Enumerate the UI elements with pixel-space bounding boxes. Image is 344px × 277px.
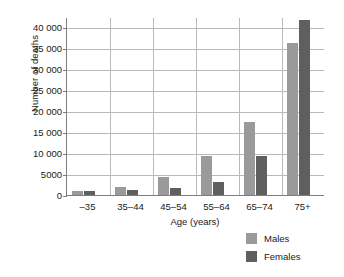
bar-females-3 [213, 182, 224, 195]
x-axis-title: Age (years) [66, 216, 324, 227]
bars-layer [67, 18, 324, 195]
y-axis-tick-mark [63, 196, 67, 197]
x-axis-tick-label: 35–44 [108, 201, 154, 213]
bar-females-4 [256, 156, 267, 195]
bar-females-5 [299, 20, 310, 195]
bar-females-2 [170, 188, 181, 195]
bar-chart-figure: Number of deaths 0500010 00015 00020 000… [0, 0, 344, 277]
bar-group [110, 18, 153, 195]
y-axis-tick-label: 30 000 [33, 65, 62, 75]
legend-label: Males [264, 233, 289, 244]
legend-swatch-females [246, 251, 257, 262]
bar-females-1 [127, 190, 138, 195]
bar-males-4 [244, 122, 255, 195]
bar-group [282, 18, 325, 195]
y-axis-tick-label: 15 000 [33, 128, 62, 138]
y-axis-tick-label: 35 000 [33, 44, 62, 54]
plot-area [66, 18, 324, 196]
bar-males-3 [201, 156, 212, 195]
bar-males-5 [287, 43, 298, 195]
y-axis-tick-label: 20 000 [33, 107, 62, 117]
y-axis-tick-label: 40 000 [33, 23, 62, 33]
x-axis-tick-label: 45–54 [151, 201, 197, 213]
x-axis-tick-label: 65–74 [237, 201, 283, 213]
y-axis-tick-label: 0 [57, 191, 62, 201]
legend-item-females: Females [246, 248, 300, 264]
chart-legend: MalesFemales [246, 230, 300, 266]
legend-label: Females [264, 251, 300, 262]
y-axis-tick-label: 5000 [41, 170, 62, 180]
bar-males-2 [158, 177, 169, 195]
bar-group [196, 18, 239, 195]
bar-males-0 [72, 191, 83, 195]
y-axis-tick-label: 10 000 [33, 149, 62, 159]
x-axis-tick-labels: –3535–4445–5455–6465–7475+ [66, 201, 324, 215]
y-axis-tick-labels: 0500010 00015 00020 00025 00030 00035 00… [12, 18, 62, 200]
bar-females-0 [84, 191, 95, 195]
x-axis-tick-label: 75+ [280, 201, 326, 213]
y-axis-tick-label: 25 000 [33, 86, 62, 96]
legend-item-males: Males [246, 230, 300, 246]
bar-group [153, 18, 196, 195]
bar-group [67, 18, 110, 195]
x-axis-tick-label: 55–64 [194, 201, 240, 213]
x-axis-tick-label: –35 [65, 201, 111, 213]
bar-males-1 [115, 187, 126, 195]
legend-swatch-males [246, 233, 257, 244]
bar-group [239, 18, 282, 195]
